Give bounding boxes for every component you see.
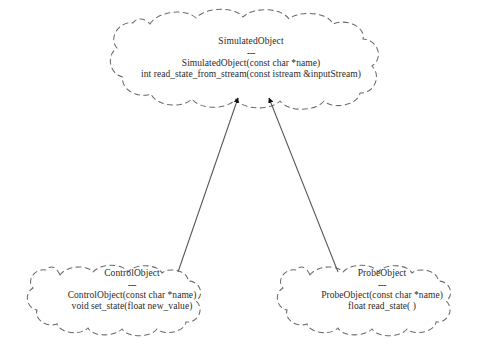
class-member: ControlObject(const char *name) bbox=[16, 290, 248, 302]
class-name-probe-object: ProbeObject bbox=[266, 268, 498, 280]
class-box-simulated-object: SimulatedObject --- SimulatedObject(cons… bbox=[51, 36, 451, 81]
class-member: SimulatedObject(const char *name) bbox=[51, 58, 451, 70]
inheritance-arrow-probe-to-simulated bbox=[269, 98, 338, 272]
class-box-probe-object: ProbeObject --- ProbeObject(const char *… bbox=[266, 268, 498, 313]
class-member: ProbeObject(const char *name) bbox=[266, 290, 498, 302]
class-members-control-object: ControlObject(const char *name) void set… bbox=[16, 290, 248, 313]
class-box-control-object: ControlObject --- ControlObject(const ch… bbox=[16, 268, 248, 313]
diagram-canvas: SimulatedObject --- SimulatedObject(cons… bbox=[0, 0, 502, 354]
class-name-control-object: ControlObject bbox=[16, 268, 248, 280]
class-member: float read_state( ) bbox=[266, 301, 498, 313]
class-members-simulated-object: SimulatedObject(const char *name) int re… bbox=[51, 58, 451, 81]
class-separator-control-object: --- bbox=[16, 281, 248, 289]
inheritance-arrow-control-to-simulated bbox=[178, 98, 238, 272]
class-member: int read_state_from_stream(const istream… bbox=[51, 69, 451, 81]
class-separator-probe-object: --- bbox=[266, 281, 498, 289]
class-separator-simulated-object: --- bbox=[51, 49, 451, 57]
class-member: void set_state(float new_value) bbox=[16, 301, 248, 313]
class-members-probe-object: ProbeObject(const char *name) float read… bbox=[266, 290, 498, 313]
class-name-simulated-object: SimulatedObject bbox=[51, 36, 451, 48]
